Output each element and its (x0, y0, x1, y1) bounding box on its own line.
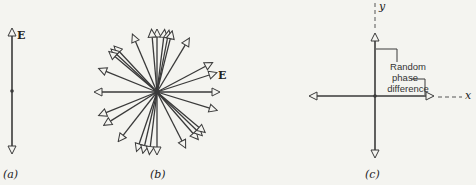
axis-label-x: x (465, 89, 471, 102)
field-label-a: E (17, 29, 25, 42)
caption-c: (c) (365, 168, 380, 181)
caption-b: (b) (150, 168, 166, 181)
panel-a-linear-field (10, 36, 14, 146)
field-vector (115, 57, 157, 92)
axis-label-y: y (379, 0, 385, 13)
caption-a: (a) (3, 168, 18, 181)
field-vector (110, 92, 157, 121)
annotation-random-phase: Random phase difference (378, 61, 438, 94)
field-label-b: E (218, 69, 226, 82)
field-vector (157, 39, 170, 92)
field-vector (157, 92, 199, 127)
panel-b-random-vectors (102, 37, 212, 147)
